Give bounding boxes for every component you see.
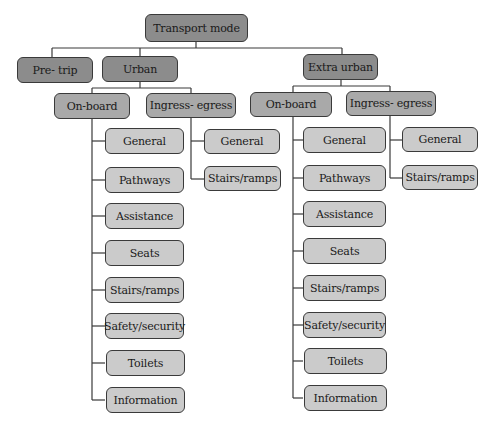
leaf-urban-on-board-toilets: Toilets [106, 350, 185, 376]
leaf-urban-on-board-seats: Seats [105, 240, 184, 266]
leaf-urban-ingress-general: General [204, 129, 280, 154]
node-transport-mode: Transport mode [145, 14, 248, 42]
leaf-extra-on-board-general: General [303, 127, 386, 153]
node-extra-urban-ingress-egress: Ingress- egress [346, 91, 436, 116]
leaf-urban-on-board-stairs-ramps: Stairs/ramps [105, 277, 184, 303]
leaf-urban-on-board-safety-security: Safety/security [105, 313, 184, 339]
leaf-extra-ingress-stairs-ramps: Stairs/ramps [402, 165, 478, 190]
node-urban: Urban [102, 56, 178, 82]
leaf-extra-on-board-pathways: Pathways [303, 165, 386, 191]
leaf-extra-on-board-information: Information [304, 385, 387, 411]
leaf-extra-on-board-seats: Seats [303, 238, 386, 264]
node-extra-urban: Extra urban [303, 54, 378, 80]
leaf-urban-on-board-assistance: Assistance [105, 203, 184, 229]
leaf-urban-on-board-information: Information [106, 387, 185, 413]
node-pre-trip: Pre- trip [17, 57, 93, 83]
leaf-urban-on-board-pathways: Pathways [105, 167, 184, 193]
transport-mode-tree-diagram: Transport mode Pre- trip Urban Extra urb… [0, 0, 492, 427]
leaf-extra-on-board-stairs-ramps: Stairs/ramps [303, 275, 386, 301]
node-urban-ingress-egress: Ingress- egress [146, 93, 236, 118]
leaf-urban-ingress-stairs-ramps: Stairs/ramps [204, 166, 281, 191]
node-extra-urban-on-board: On-board [250, 92, 332, 117]
leaf-extra-on-board-assistance: Assistance [303, 201, 386, 227]
leaf-extra-on-board-safety-security: Safety/security [303, 312, 386, 338]
leaf-extra-on-board-toilets: Toilets [304, 348, 387, 374]
leaf-urban-on-board-general: General [105, 128, 184, 154]
node-urban-on-board: On-board [54, 93, 130, 119]
leaf-extra-ingress-general: General [402, 127, 478, 152]
